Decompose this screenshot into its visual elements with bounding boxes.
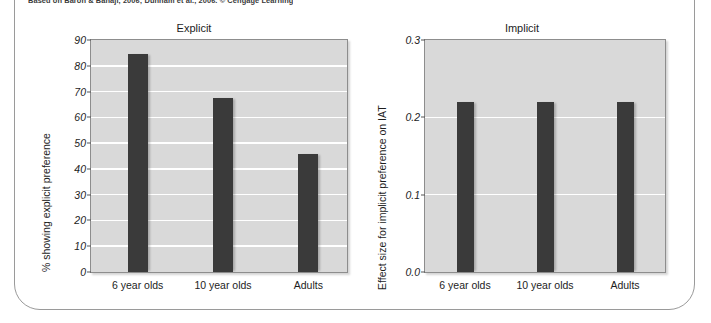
chart-title-implicit: Implicit: [372, 22, 672, 34]
bar: [617, 102, 634, 272]
x-axis-tick-label: 10 year olds: [194, 279, 251, 291]
bar: [457, 102, 474, 272]
y-axis-tick-label: 20: [74, 214, 86, 226]
y-axis-tick-label: 40: [74, 163, 86, 175]
bar: [128, 54, 148, 272]
y-axis-tick-label: 60: [74, 111, 86, 123]
y-axis-tick-label: 80: [74, 60, 86, 72]
y-axis-tick-label: 30: [74, 189, 86, 201]
x-axis-tick-label: Adults: [610, 279, 639, 291]
y-axis-tick-label: 0.2: [405, 111, 420, 123]
x-axis-tick-label: 10 year olds: [516, 279, 573, 291]
chart-panel-explicit: Explicit % showing explicit preference 0…: [34, 22, 354, 312]
y-axis-tick-label: 0.0: [405, 266, 420, 278]
y-axis-tick-label: 0.3: [405, 34, 420, 46]
x-axis-tick-label: 6 year olds: [112, 279, 163, 291]
x-axis-tick-label: 6 year olds: [439, 279, 490, 291]
plot-area-explicit: 01020304050607080906 year olds10 year ol…: [90, 39, 348, 273]
plot-area-implicit: 0.00.10.20.36 year olds10 year oldsAdult…: [424, 39, 666, 273]
chart-title-explicit: Explicit: [34, 22, 354, 34]
x-axis-tick-label: Adults: [294, 279, 323, 291]
bar: [537, 102, 554, 272]
y-axis-tick-label: 0.1: [405, 189, 420, 201]
y-axis-tick-label: 90: [74, 34, 86, 46]
y-axis-title-implicit: Effect size for implicit preference on I…: [376, 105, 388, 290]
y-axis-title-explicit: % showing explicit preference: [40, 133, 52, 272]
chart-panel-implicit: Implicit Effect size for implicit prefer…: [372, 22, 672, 312]
bar: [298, 154, 318, 272]
y-axis-tick-label: 10: [74, 240, 86, 252]
y-axis-tick-label: 50: [74, 137, 86, 149]
y-axis-tick-label: 70: [74, 86, 86, 98]
source-credit: Based on Baron & Banaji, 2006; Dunham et…: [28, 0, 293, 5]
bar: [213, 98, 233, 272]
y-axis-tick-label: 0: [80, 266, 86, 278]
